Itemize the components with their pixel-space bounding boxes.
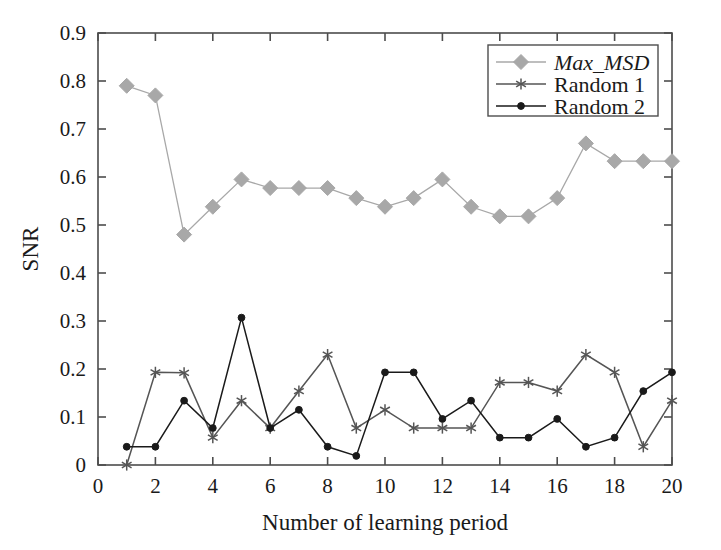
y-axis-title: SNR [18, 226, 43, 271]
data-point [492, 209, 507, 224]
data-point [521, 209, 536, 224]
data-series-layer [119, 78, 679, 470]
x-axis-title: Number of learning period [262, 510, 508, 535]
x-tick-label: 14 [489, 474, 511, 498]
y-tick-label: 0.7 [60, 117, 86, 141]
y-tick-label: 0.8 [60, 69, 86, 93]
data-point [669, 369, 676, 376]
data-point [324, 443, 331, 450]
x-tick-label: 6 [265, 474, 276, 498]
x-tick-label: 12 [432, 474, 453, 498]
data-point [238, 314, 245, 321]
y-tick-label: 0.3 [60, 309, 86, 333]
y-tick-label: 0.9 [60, 21, 86, 45]
series-random-2 [123, 314, 675, 459]
data-point [607, 154, 622, 169]
data-point [209, 425, 216, 432]
y-tick-label: 0.2 [60, 357, 86, 381]
y-tick-label: 0.4 [60, 261, 87, 285]
data-point [296, 406, 303, 413]
x-tick-label: 4 [208, 474, 219, 498]
data-point [640, 388, 647, 395]
chart-figure: 00.10.20.30.40.50.60.70.80.9024681012141… [0, 0, 721, 550]
data-point [152, 443, 159, 450]
y-tick-label: 0.1 [60, 405, 86, 429]
x-tick-label: 18 [604, 474, 625, 498]
x-tick-label: 2 [150, 474, 161, 498]
data-point [378, 199, 393, 214]
data-point [550, 191, 565, 206]
y-tick-label: 0.6 [60, 165, 86, 189]
data-point [583, 443, 590, 450]
data-point [349, 191, 364, 206]
data-point [636, 154, 651, 169]
data-point [291, 181, 306, 196]
x-tick-label: 10 [375, 474, 396, 498]
data-point [638, 441, 648, 452]
x-tick-label: 0 [93, 474, 104, 498]
data-point [611, 434, 618, 441]
data-point [406, 191, 421, 206]
x-tick-label: 16 [547, 474, 568, 498]
data-point [525, 434, 532, 441]
data-point [554, 416, 561, 423]
y-tick-label: 0.5 [60, 213, 86, 237]
data-point [439, 416, 446, 423]
line-chart: 00.10.20.30.40.50.60.70.80.9024681012141… [0, 0, 721, 550]
x-tick-label: 20 [662, 474, 683, 498]
x-tick-label: 8 [322, 474, 333, 498]
data-point [578, 136, 593, 151]
data-point [610, 367, 620, 378]
data-point [267, 425, 274, 432]
series-line [127, 355, 672, 465]
legend-marker [518, 103, 525, 110]
legend-label: Random 2 [554, 94, 645, 119]
data-point [320, 181, 335, 196]
data-point [123, 443, 130, 450]
data-point [496, 434, 503, 441]
data-point [148, 88, 163, 103]
data-point [667, 395, 677, 406]
chart-legend[interactable]: Max_MSDRandom 1Random 2 [488, 45, 658, 119]
y-tick-label: 0 [76, 453, 87, 477]
data-point [353, 452, 360, 459]
data-point [468, 397, 475, 404]
data-point [665, 154, 680, 169]
data-point [119, 78, 134, 93]
data-point [410, 369, 417, 376]
data-point [382, 369, 389, 376]
data-point [263, 181, 278, 196]
data-point [380, 404, 390, 415]
series-random-1 [122, 349, 677, 471]
data-point [351, 422, 361, 433]
data-point [181, 397, 188, 404]
